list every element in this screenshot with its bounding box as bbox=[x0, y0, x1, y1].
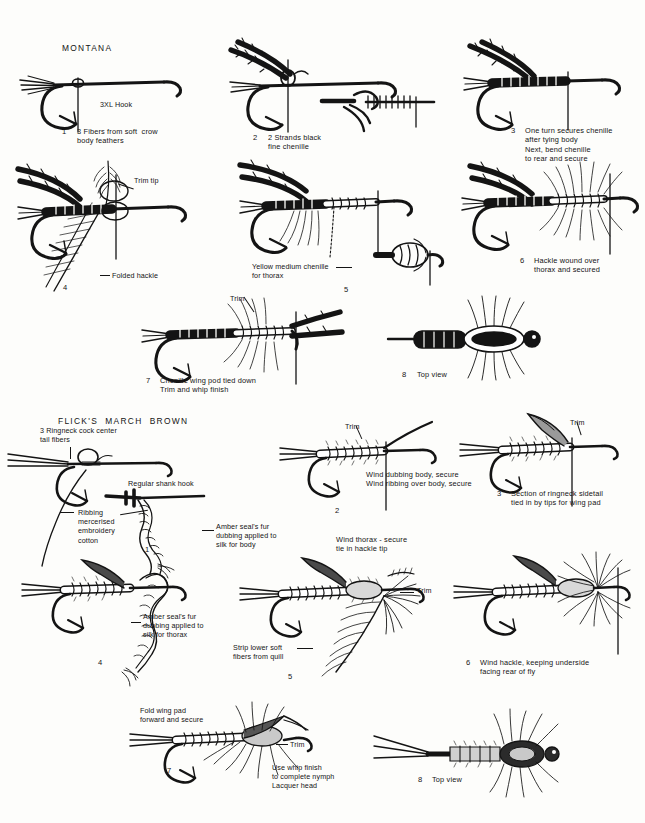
label-yellow-chenille-thorax: Yellow medium chenille for thorax bbox=[252, 262, 329, 280]
leader-line-ribbing bbox=[60, 512, 74, 513]
figure-mb-step-8 bbox=[372, 700, 572, 810]
step-number-mb8: 8 bbox=[418, 775, 422, 784]
label-trim-tip: Trim tip bbox=[134, 176, 159, 185]
step-number-mb4: 4 bbox=[98, 658, 102, 667]
step-number-mb5: 5 bbox=[288, 672, 292, 681]
label-ribbing-cotton: Ribbing mercerised embroidery cotton bbox=[78, 508, 115, 545]
step-number-mb1: 1 bbox=[145, 545, 149, 554]
label-amber-seal-thorax: Amber seal's fur dubbing applied to silk… bbox=[143, 612, 204, 640]
leader-line-trim-mb7 bbox=[276, 744, 288, 745]
figure-montana-step-2-detail bbox=[320, 85, 440, 135]
label-strip-lower-fibers: Strip lower soft fibers from quill bbox=[233, 643, 283, 661]
figure-montana-step-5-detail bbox=[374, 233, 454, 293]
step-number-m6: 6 bbox=[520, 256, 524, 265]
leader-line-strip-fibers bbox=[297, 648, 313, 649]
label-wind-thorax: Wind thorax - secure tie in hackle tip bbox=[336, 535, 407, 554]
leader-line-folded-hackle bbox=[100, 275, 110, 276]
section-title-march-brown: FLICK'S MARCH BROWN bbox=[58, 416, 188, 426]
leader-line-trim-mb5 bbox=[400, 592, 414, 593]
label-trim-mb5: Trim bbox=[417, 586, 432, 595]
label-folded-hackle: Folded hackle bbox=[112, 271, 158, 280]
step-number-m8: 8 bbox=[402, 370, 406, 379]
leader-line-amber-thorax bbox=[131, 622, 141, 623]
figure-montana-step-7 bbox=[140, 290, 370, 390]
step-number-m7: 7 bbox=[146, 376, 150, 385]
caption-m6: Hackle wound over thorax and secured bbox=[534, 256, 600, 275]
caption-mb2: Wind dubbing body, secure Wind ribbing o… bbox=[366, 470, 472, 489]
caption-m7: Chenille wing pod tied down Trim and whi… bbox=[160, 376, 256, 395]
label-trim-m7: Trim bbox=[230, 294, 245, 303]
step-number-mb6: 6 bbox=[466, 658, 470, 667]
figure-montana-step-3 bbox=[462, 38, 642, 138]
label-3xl-hook: 3XL Hook bbox=[100, 100, 132, 109]
caption-mb8: Top view bbox=[432, 775, 462, 784]
figure-mb-step-4 bbox=[20, 560, 240, 690]
section-title-montana: MONTANA bbox=[62, 43, 112, 53]
caption-m2: 2 Strands black fine chenille bbox=[268, 133, 321, 152]
leader-line-tail-fibers bbox=[70, 447, 71, 459]
step-number-mb3: 3 bbox=[497, 489, 501, 498]
step-number-m1: 1 bbox=[62, 127, 66, 136]
figure-montana-step-8 bbox=[386, 295, 566, 385]
step-number-mb2: 2 bbox=[335, 506, 339, 515]
label-fold-wing-pod: Fold wing pad forward and secure bbox=[140, 706, 203, 724]
label-use-whip-finish: Use whip finish to complete nymph Lacque… bbox=[272, 763, 334, 791]
label-regular-shank-hook: Regular shank hook bbox=[128, 479, 194, 488]
caption-mb3: Section of ringneck sidetail tied in by … bbox=[511, 489, 603, 508]
caption-m8: Top view bbox=[417, 370, 447, 379]
leader-line-amber-body bbox=[202, 530, 214, 531]
label-trim-mb7: Trim bbox=[290, 740, 305, 749]
caption-m1: 3 Fibers from soft crow body feathers bbox=[77, 127, 158, 146]
step-number-mb7: 7 bbox=[167, 766, 171, 775]
step-number-m4: 4 bbox=[63, 283, 67, 292]
caption-mb6: Wind hackle, keeping underside facing re… bbox=[480, 658, 589, 677]
label-ringneck-tail-fibers: 3 Ringneck cock center tail fibers bbox=[40, 426, 117, 444]
step-number-m3: 3 bbox=[511, 126, 515, 135]
step-number-m2: 2 bbox=[253, 133, 257, 142]
leader-line-yellow-chenille bbox=[336, 267, 352, 268]
label-amber-seal-body: Amber seal's fur dubbing applied to silk… bbox=[216, 522, 277, 550]
figure-montana-step-1 bbox=[16, 58, 206, 138]
figure-mb-step-5 bbox=[238, 556, 448, 696]
illustration-page: MONTANA bbox=[0, 0, 645, 823]
